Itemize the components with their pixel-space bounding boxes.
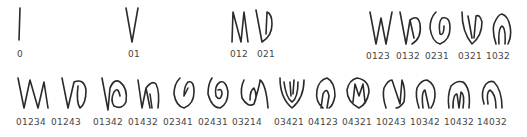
meander-label: 0321 — [458, 51, 482, 61]
meander-label: 03214 — [232, 117, 262, 127]
meander-glyph-03421 — [278, 76, 306, 110]
meander-label: 012 — [230, 49, 248, 59]
meander-glyph-021 — [252, 8, 276, 44]
meander-glyph-03214 — [238, 74, 270, 110]
meander-glyph-02431 — [206, 76, 232, 110]
meander-label: 01243 — [51, 117, 81, 127]
meander-glyph-0132 — [398, 10, 426, 46]
meander-glyph-01342 — [100, 74, 130, 112]
meander-glyph-0 — [14, 6, 24, 42]
meander-label: 04123 — [308, 117, 338, 127]
meander-glyph-01234 — [16, 74, 50, 110]
meander-glyph-01432 — [136, 74, 162, 110]
meander-glyph-02341 — [172, 74, 198, 110]
meander-glyph-14032 — [478, 78, 506, 110]
meander-label: 1032 — [486, 51, 510, 61]
meander-label: 02341 — [163, 117, 193, 127]
meander-label: 01342 — [93, 117, 123, 127]
meander-glyph-04123 — [313, 76, 339, 110]
meander-label: 02431 — [198, 117, 228, 127]
meander-label: 021 — [257, 49, 275, 59]
meander-diagram: 0 01 012 021 0123 0132 0231 0321 1032 — [0, 0, 527, 137]
meander-label: 01432 — [128, 117, 158, 127]
meander-glyph-0123 — [368, 10, 394, 46]
meander-label: 10243 — [376, 117, 406, 127]
meander-label: 01234 — [16, 117, 46, 127]
meander-glyph-0231 — [428, 10, 454, 46]
meander-label: 01 — [128, 49, 140, 59]
meander-label: 0132 — [396, 51, 420, 61]
meander-label: 0123 — [366, 51, 390, 61]
meander-glyph-10243 — [380, 76, 408, 110]
meander-label: 03421 — [274, 117, 304, 127]
meander-label: 0 — [17, 49, 23, 59]
meander-label: 14032 — [477, 117, 507, 127]
meander-label: 10432 — [444, 117, 474, 127]
meander-glyph-012 — [230, 8, 252, 44]
meander-glyph-1032 — [490, 12, 514, 46]
meander-label: 04321 — [342, 117, 372, 127]
meander-label: 0231 — [425, 51, 449, 61]
meander-label: 10342 — [410, 117, 440, 127]
meander-glyph-10342 — [413, 78, 439, 110]
meander-glyph-01243 — [60, 74, 90, 110]
meander-glyph-01 — [124, 6, 140, 44]
meander-glyph-04321 — [345, 76, 373, 110]
meander-glyph-0321 — [460, 10, 486, 46]
meander-glyph-10432 — [445, 78, 473, 110]
